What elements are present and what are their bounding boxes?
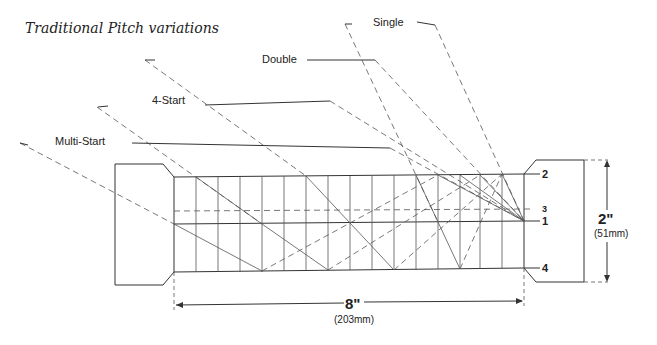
length-line-left: [176, 303, 344, 305]
length-mm: (203mm): [334, 314, 374, 325]
line-number-1: 1: [542, 215, 548, 227]
arrow-left-icon: [176, 302, 183, 308]
diameter-mm: (51mm): [594, 228, 628, 239]
left-end-block: [115, 164, 174, 285]
number-ticks: [524, 174, 540, 268]
arrow-up-icon: [604, 160, 610, 167]
line-4-bottom: [174, 268, 524, 272]
line-number-4: 4: [542, 262, 549, 274]
length-inches: 8": [345, 295, 360, 312]
line-2-top: [174, 174, 524, 177]
pitch-diagram: Single Double 4-Start Multi-Start 2 3 1 …: [0, 0, 657, 345]
arrow-down-icon: [604, 275, 610, 282]
arrow-right-icon: [516, 298, 523, 304]
label-single: Single: [373, 16, 404, 28]
label-4-start: 4-Start: [152, 94, 185, 106]
label-leaders: [20, 22, 435, 148]
length-line-right: [364, 301, 522, 302]
label-double: Double: [262, 53, 297, 65]
diameter-inches: 2": [598, 210, 613, 227]
line-number-3: 3: [542, 204, 547, 214]
line-3-dashed: [174, 209, 530, 211]
line-number-2: 2: [542, 168, 548, 180]
label-multi-start: Multi-Start: [55, 135, 105, 147]
